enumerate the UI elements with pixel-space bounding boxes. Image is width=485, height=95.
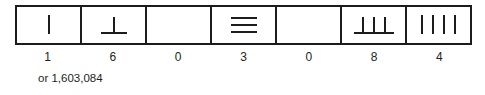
vertical-stroke — [48, 15, 50, 34]
caption-text: or 1,603,084 — [38, 72, 103, 84]
empty-cell-icon — [147, 7, 210, 43]
numeral-cell — [407, 7, 470, 43]
digit-label: 4 — [407, 47, 472, 67]
numeral-strip — [15, 5, 472, 45]
digit-label-row: 1603084 — [15, 47, 472, 67]
base-bar — [354, 32, 394, 34]
vertical-stroke — [113, 17, 115, 32]
bar-with-three-strokes-icon — [342, 7, 405, 43]
vertical-stroke — [432, 15, 434, 34]
vertical-stroke — [454, 15, 456, 34]
horizontal-bar — [231, 31, 257, 33]
vertical-stroke — [421, 15, 423, 34]
vertical-stroke — [373, 17, 375, 32]
digit-label: 3 — [211, 47, 276, 67]
horizontal-bar — [231, 24, 257, 26]
digit-label: 6 — [80, 47, 145, 67]
one-vertical-stroke-icon — [17, 7, 80, 43]
base-bar — [101, 32, 127, 34]
vertical-stroke — [384, 17, 386, 32]
horizontal-bar — [231, 17, 257, 19]
digit-label: 0 — [276, 47, 341, 67]
numeral-cell — [17, 7, 82, 43]
three-horizontal-bars-icon — [212, 7, 275, 43]
numeral-cell — [147, 7, 212, 43]
digit-label: 8 — [341, 47, 406, 67]
vertical-stroke — [362, 17, 364, 32]
four-vertical-strokes-icon — [407, 7, 470, 43]
empty-cell-icon — [277, 7, 340, 43]
digit-label: 0 — [146, 47, 211, 67]
numeral-cell — [82, 7, 147, 43]
digit-label: 1 — [15, 47, 80, 67]
numeral-cell — [277, 7, 342, 43]
numeral-cell — [212, 7, 277, 43]
vertical-stroke — [443, 15, 445, 34]
bar-with-one-stroke-icon — [82, 7, 145, 43]
numeral-cell — [342, 7, 407, 43]
